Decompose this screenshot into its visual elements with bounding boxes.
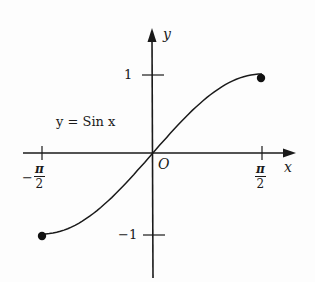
y-axis-arrow-icon xyxy=(148,28,157,42)
frac-num: π xyxy=(34,163,45,177)
frac-den: 2 xyxy=(255,177,266,190)
frac-den: 2 xyxy=(34,177,45,190)
y-axis xyxy=(152,38,153,278)
x-tick-label-neg: π 2 xyxy=(34,163,45,190)
origin-label: O xyxy=(158,157,169,171)
x-tick-label-pos: π 2 xyxy=(255,163,266,190)
y-tick-label-1: 1 xyxy=(124,68,132,81)
x-axis-label: x xyxy=(284,160,292,174)
y-axis-label: y xyxy=(163,27,171,41)
x-tick-sign-neg: − xyxy=(22,171,33,184)
sine-graph xyxy=(0,0,315,282)
y-tick-label-neg1: −1 xyxy=(118,228,137,241)
frac-num: π xyxy=(255,163,266,177)
x-axis-arrow-icon xyxy=(283,149,296,158)
endpoint-left xyxy=(38,232,46,240)
endpoint-right xyxy=(257,74,265,82)
curve-label: y = Sin x xyxy=(56,115,115,128)
